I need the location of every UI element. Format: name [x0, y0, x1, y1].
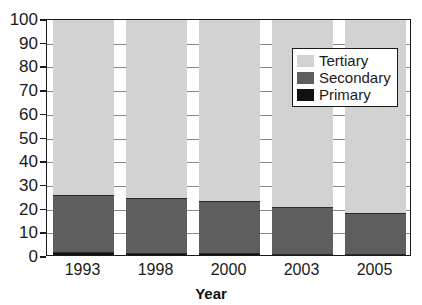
- y-tick-mark: [40, 185, 46, 187]
- legend-item: Secondary: [297, 69, 391, 86]
- y-tick-label: 30: [19, 176, 38, 193]
- segment-divider: [199, 253, 261, 254]
- x-tick-label: 1998: [138, 261, 174, 279]
- legend-swatch: [297, 55, 314, 67]
- legend-item: Tertiary: [297, 52, 391, 69]
- bar-group: [199, 20, 261, 255]
- segment-divider: [345, 254, 407, 255]
- chart-legend: TertiarySecondaryPrimary: [292, 48, 398, 107]
- y-tick-label: 40: [19, 153, 38, 170]
- y-tick-mark: [40, 43, 46, 45]
- y-tick-mark: [40, 209, 46, 211]
- bar-segment-tertiary: [126, 20, 188, 198]
- segment-divider: [126, 253, 188, 254]
- y-tick-mark: [40, 19, 46, 21]
- legend-label: Secondary: [319, 70, 391, 85]
- segment-divider: [199, 201, 261, 202]
- legend-label: Primary: [319, 87, 371, 102]
- y-tick-mark: [40, 114, 46, 116]
- segment-divider: [272, 254, 334, 255]
- bar-segment-secondary: [345, 213, 407, 254]
- y-tick-label: 80: [19, 58, 38, 75]
- y-tick-label: 60: [19, 105, 38, 122]
- bar-segment-tertiary: [199, 20, 261, 201]
- y-tick-label: 70: [19, 82, 38, 99]
- y-tick-mark: [40, 66, 46, 68]
- y-tick-mark: [40, 138, 46, 140]
- bar-segment-secondary: [199, 201, 261, 253]
- y-tick-label: 10: [19, 224, 38, 241]
- x-tick-label: 2003: [284, 261, 320, 279]
- segment-divider: [272, 207, 334, 208]
- bar-group: [53, 20, 115, 255]
- y-tick-mark: [40, 90, 46, 92]
- x-tick-label: 2005: [357, 261, 393, 279]
- x-tick-label: 2000: [211, 261, 247, 279]
- stacked-bar-chart: 0102030405060708090100 Year TertiarySeco…: [0, 0, 422, 305]
- y-tick-label: 100: [10, 11, 38, 28]
- segment-divider: [53, 195, 115, 196]
- y-tick-label: 90: [19, 34, 38, 51]
- bar-segment-secondary: [272, 207, 334, 254]
- y-tick-mark: [40, 256, 46, 258]
- y-tick-mark: [40, 232, 46, 234]
- bar-group: [126, 20, 188, 255]
- x-axis-title: Year: [0, 285, 422, 302]
- segment-divider: [126, 198, 188, 199]
- y-tick-mark: [40, 161, 46, 163]
- legend-item: Primary: [297, 86, 391, 103]
- segment-divider: [345, 213, 407, 214]
- bar-segment-secondary: [126, 198, 188, 253]
- y-axis: 0102030405060708090100: [0, 19, 38, 256]
- segment-divider: [53, 252, 115, 253]
- x-tick-label: 1993: [65, 261, 101, 279]
- y-tick-label: 0: [29, 248, 38, 265]
- y-tick-label: 50: [19, 129, 38, 146]
- legend-label: Tertiary: [319, 53, 368, 68]
- bar-segment-secondary: [53, 195, 115, 252]
- legend-swatch: [297, 89, 314, 101]
- bar-segment-tertiary: [53, 20, 115, 195]
- legend-swatch: [297, 72, 314, 84]
- y-tick-label: 20: [19, 200, 38, 217]
